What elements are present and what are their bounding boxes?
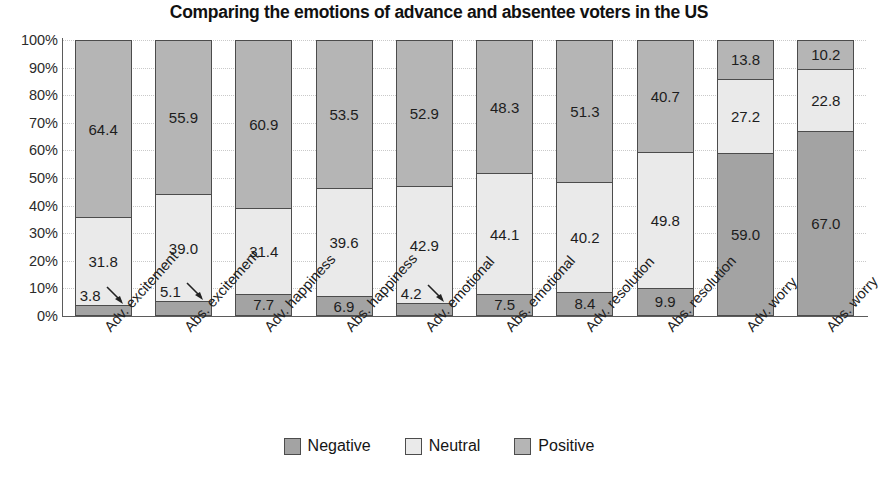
x-label-slot: Abs. resolution — [637, 318, 694, 428]
bar-segment-value: 27.2 — [731, 109, 760, 124]
bar-segment-value: 3.8 — [80, 288, 101, 303]
bar-segment-negative[interactable]: 59.0 — [718, 153, 773, 315]
bar-segment-positive[interactable]: 48.3 — [477, 41, 532, 173]
bar-segment-value: 5.1 — [160, 284, 181, 299]
x-label-slot: Abs. happiness — [316, 318, 373, 428]
bar-segment-value: 44.1 — [490, 227, 519, 242]
bar-segment-positive[interactable]: 55.9 — [156, 41, 211, 194]
x-axis-category-labels: Adv. excitementAbs. excitementAdv. happi… — [63, 318, 866, 428]
bar-segment-value: 8.4 — [575, 296, 596, 311]
bar-segment-value: 51.3 — [570, 104, 599, 119]
y-axis-tick-labels: 100%90%80%70%60%50%40%30%20%10%0% — [0, 40, 58, 316]
bar-segment-positive[interactable]: 10.2 — [798, 41, 853, 69]
bar-segment-value: 67.0 — [811, 216, 840, 231]
y-tick-label: 80% — [2, 87, 58, 103]
legend-label: Negative — [308, 437, 371, 455]
bar-segment-positive[interactable]: 40.7 — [638, 41, 693, 152]
stacked-bar[interactable]: 10.222.867.0 — [797, 40, 854, 316]
legend-swatch-positive — [514, 438, 531, 455]
y-tick-label: 70% — [2, 115, 58, 131]
y-tick-label: 40% — [2, 198, 58, 214]
bar-segment-value: 48.3 — [490, 100, 519, 115]
x-label-slot: Abs. excitement — [155, 318, 212, 428]
bar-segment-value: 31.4 — [249, 244, 278, 259]
legend-item[interactable]: Neutral — [405, 437, 481, 455]
legend-item[interactable]: Positive — [514, 437, 594, 455]
y-tick-label: 30% — [2, 225, 58, 241]
y-tick-label: 60% — [2, 142, 58, 158]
x-label-slot: Abs. worry — [797, 318, 854, 428]
bar-segment-value: 55.9 — [169, 110, 198, 125]
bar-segment-value: 64.4 — [89, 122, 118, 137]
bar-segment-value: 7.5 — [494, 297, 515, 312]
x-label-slot: Abs. emotional — [476, 318, 533, 428]
bar-segment-value: 59.0 — [731, 227, 760, 242]
x-axis-line — [62, 316, 868, 317]
bar-segment-positive[interactable]: 52.9 — [397, 41, 452, 186]
bar-segment-value: 49.8 — [651, 213, 680, 228]
bar-segment-value: 39.0 — [169, 241, 198, 256]
x-label-slot: Adv. resolution — [556, 318, 613, 428]
plot-area: 64.431.83.855.939.05.160.931.47.753.539.… — [63, 40, 866, 316]
x-label-slot: Adv. excitement — [75, 318, 132, 428]
bar-segment-value: 40.2 — [570, 230, 599, 245]
stacked-bar[interactable]: 64.431.83.8 — [75, 40, 132, 316]
bar-segment-positive[interactable]: 53.5 — [317, 41, 372, 188]
chart-title: Comparing the emotions of advance and ab… — [0, 2, 878, 23]
bar-segment-neutral[interactable]: 39.6 — [317, 188, 372, 297]
bar-segment-neutral[interactable]: 27.2 — [718, 79, 773, 154]
legend-swatch-neutral — [405, 438, 422, 455]
x-label-slot: Adv. worry — [717, 318, 774, 428]
x-label-slot: Adv. emotional — [396, 318, 453, 428]
bar-segment-value: 53.5 — [329, 107, 358, 122]
bar-segment-value: 39.6 — [329, 235, 358, 250]
legend-label: Neutral — [429, 437, 481, 455]
bar-segment-value: 9.9 — [655, 294, 676, 309]
bar-segment-positive[interactable]: 13.8 — [718, 41, 773, 79]
bar-segment-value: 4.2 — [401, 286, 422, 301]
bar-segment-value: 31.8 — [89, 254, 118, 269]
y-tick-label: 90% — [2, 60, 58, 76]
y-tick-label: 0% — [2, 308, 58, 324]
chart-legend: NegativeNeutralPositive — [0, 437, 878, 455]
bar-segment-value: 40.7 — [651, 89, 680, 104]
bar-segment-positive[interactable]: 60.9 — [236, 41, 291, 208]
bar-segment-value: 22.8 — [811, 93, 840, 108]
legend-swatch-negative — [284, 438, 301, 455]
bar-segment-value: 42.9 — [410, 238, 439, 253]
bar-segment-negative[interactable]: 67.0 — [798, 131, 853, 315]
bar-segment-neutral[interactable]: 22.8 — [798, 69, 853, 131]
bar-segment-positive[interactable]: 64.4 — [76, 41, 131, 217]
bar-segment-value: 10.2 — [811, 47, 840, 62]
bar-segment-value: 52.9 — [410, 106, 439, 121]
bar-segment-neutral[interactable]: 31.4 — [236, 208, 291, 294]
bar-segment-value: 6.9 — [334, 299, 355, 314]
bar-segment-value: 7.7 — [253, 297, 274, 312]
y-tick-label: 50% — [2, 170, 58, 186]
legend-label: Positive — [538, 437, 594, 455]
legend-item[interactable]: Negative — [284, 437, 371, 455]
bar-segment-value: 13.8 — [731, 52, 760, 67]
bar-segment-value: 60.9 — [249, 117, 278, 132]
x-label-slot: Adv. happiness — [235, 318, 292, 428]
y-tick-label: 10% — [2, 280, 58, 296]
y-tick-label: 20% — [2, 253, 58, 269]
bar-segment-positive[interactable]: 51.3 — [557, 41, 612, 182]
y-tick-label: 100% — [2, 32, 58, 48]
